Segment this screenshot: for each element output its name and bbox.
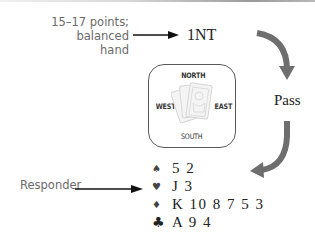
- pointer-arrow-to-1nt: [133, 31, 179, 39]
- pointer-arrow-to-hand: [75, 185, 143, 193]
- curved-arrow-1nt-to-pass: [257, 33, 295, 80]
- curved-arrow-pass-to-responder: [250, 121, 287, 178]
